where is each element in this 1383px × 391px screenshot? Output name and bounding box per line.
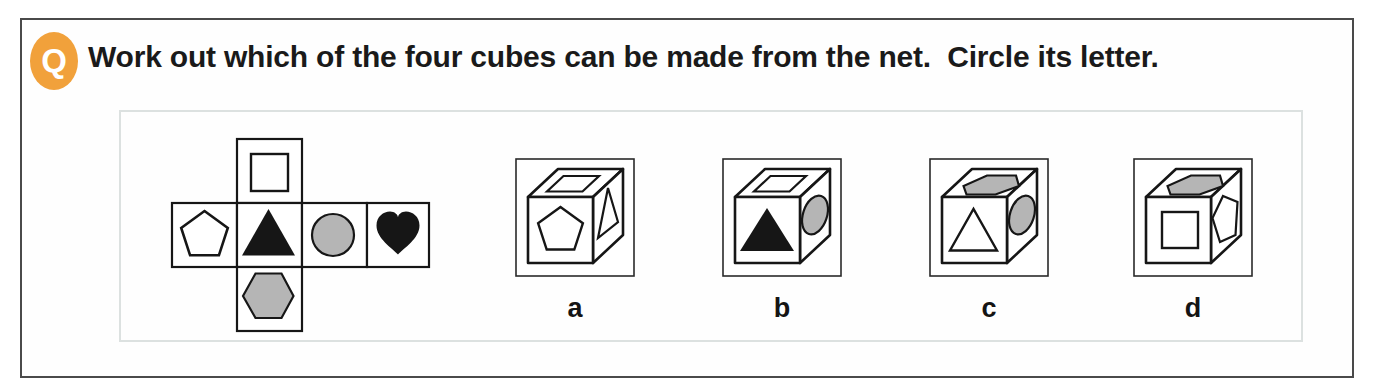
cube-option-d: [1133, 158, 1253, 277]
option-letter-a: a: [515, 293, 635, 324]
option-letter-b: b: [722, 293, 842, 324]
net-circle-shape: [312, 214, 354, 256]
cube-net: [170, 137, 432, 333]
question-badge-icon: Q: [30, 32, 78, 90]
cube-option-b: [722, 158, 842, 277]
cube-d-square-shape: [1162, 212, 1198, 248]
net-hexagon-shape: [243, 274, 294, 319]
question-badge-letter: Q: [41, 44, 67, 79]
cube-option-c: [929, 158, 1049, 277]
worksheet-page: Q Work out which of the four cubes can b…: [0, 0, 1383, 391]
option-letter-d: d: [1133, 293, 1253, 324]
option-letter-c: c: [929, 293, 1049, 324]
cube-option-a: [515, 158, 635, 277]
net-square-shape: [251, 154, 288, 191]
question-text: Work out which of the four cubes can be …: [88, 40, 1159, 74]
